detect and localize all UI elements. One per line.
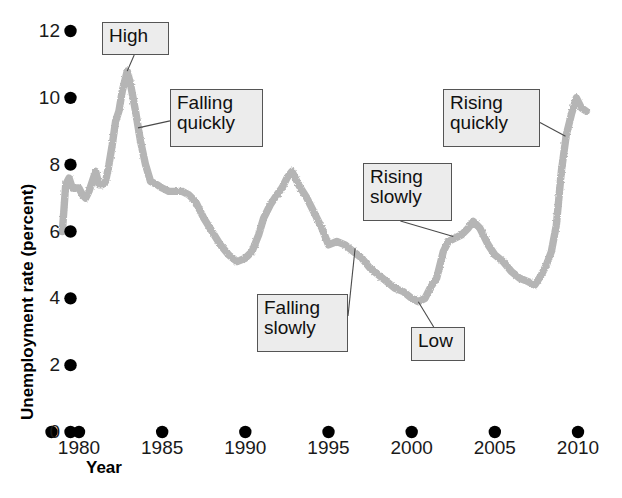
annotation-leader-line-rising-quickly [540, 123, 566, 137]
x-axis-tick-label-2010: 2010 [557, 437, 599, 459]
x-axis-tick-label-1980: 1980 [58, 437, 100, 459]
y-axis-tick-label-0: 0 [18, 421, 60, 443]
annotation-leader-line-falling-quickly [138, 121, 170, 128]
y-axis-tick-dot-10 [64, 92, 76, 104]
y-axis-tick-label-12: 12 [18, 20, 60, 42]
y-axis-tick-label-10: 10 [18, 87, 60, 109]
annotation-callout-falling-slowly: Falling slowly [257, 294, 348, 352]
y-axis-tick-label-8: 8 [18, 154, 60, 176]
annotation-callout-low: Low [411, 327, 465, 361]
y-axis-tick-dot-8 [64, 158, 76, 170]
x-axis-tick-label-2000: 2000 [391, 437, 433, 459]
y-axis-tick-dots [64, 25, 76, 438]
x-axis-tick-label-1995: 1995 [307, 437, 349, 459]
y-axis-tick-dot-4 [64, 292, 76, 304]
annotation-callout-high: High [102, 22, 169, 55]
y-axis-title: Unemployment rate (percent) [18, 184, 38, 420]
annotation-callout-rising-slowly: Rising slowly [363, 163, 452, 221]
x-axis-tick-label-1990: 1990 [224, 437, 266, 459]
annotation-callout-label-falling-slowly: Falling slowly [264, 297, 320, 338]
annotation-callout-label-high: High [109, 25, 148, 46]
annotation-callout-label-rising-slowly: Rising slowly [370, 166, 423, 207]
y-axis-tick-dot-6 [64, 225, 76, 237]
y-axis-tick-dot-12 [64, 25, 76, 37]
y-axis-tick-dot-2 [64, 359, 76, 371]
annotation-callout-label-falling-quickly: Falling quickly [177, 92, 235, 133]
annotation-callout-label-low: Low [418, 330, 453, 351]
annotation-leader-line-falling-slowly [348, 248, 355, 316]
x-axis-tick-label-2005: 2005 [474, 437, 516, 459]
annotation-callout-falling-quickly: Falling quickly [170, 89, 263, 147]
unemployment-rate-chart: 0246810121980198519901995200020052010 Un… [0, 0, 622, 498]
annotation-leader-line-high [127, 55, 134, 71]
annotation-leader-line-rising-slowly [400, 221, 453, 237]
x-axis-tick-label-1985: 1985 [141, 437, 183, 459]
chart-canvas [0, 0, 622, 498]
annotation-leader-line-low [418, 302, 433, 327]
annotation-callout-rising-quickly: Rising quickly [443, 89, 540, 147]
annotation-callout-label-rising-quickly: Rising quickly [450, 92, 508, 133]
x-axis-title: Year [86, 458, 122, 478]
